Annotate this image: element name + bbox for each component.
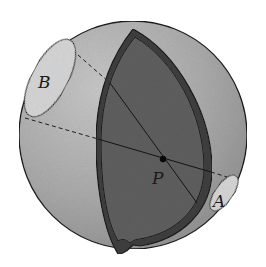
sphere-diagram: P B A	[0, 0, 266, 267]
point-p	[160, 156, 166, 162]
label-b: B	[37, 72, 51, 92]
label-a: A	[211, 191, 225, 211]
label-p: P	[151, 168, 164, 188]
